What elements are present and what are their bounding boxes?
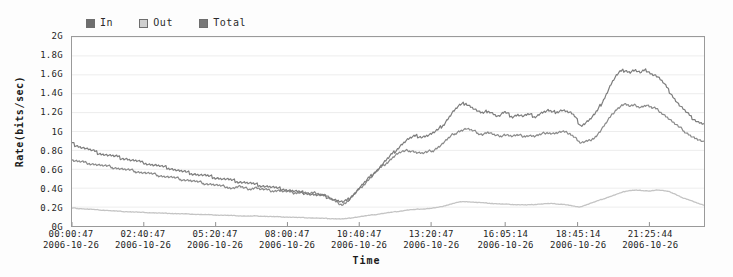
y-tick-label: 0.4G bbox=[40, 184, 63, 194]
series-line-total bbox=[72, 69, 704, 203]
x-tick-label: 10:40:472006-10-26 bbox=[331, 229, 387, 251]
x-tick-label: 18:45:142006-10-26 bbox=[550, 229, 606, 251]
x-tick-time: 05:20:47 bbox=[187, 229, 243, 240]
x-tick-label: 05:20:472006-10-26 bbox=[187, 229, 243, 251]
y-tick-label: 0.8G bbox=[40, 146, 63, 156]
x-tick-date: 2006-10-26 bbox=[331, 240, 387, 251]
x-tick-date: 2006-10-26 bbox=[43, 240, 99, 251]
legend-item-out[interactable]: Out bbox=[139, 18, 173, 28]
x-tick-time: 00:00:47 bbox=[43, 229, 99, 240]
x-tick-date: 2006-10-26 bbox=[259, 240, 315, 251]
series-line-out bbox=[72, 190, 704, 219]
x-tick-time: 21:25:44 bbox=[622, 229, 678, 240]
chart-legend: In Out Total bbox=[86, 16, 246, 30]
series-canvas bbox=[72, 37, 704, 226]
x-axis-title: Time bbox=[0, 255, 733, 266]
legend-label-total: Total bbox=[213, 18, 246, 28]
x-tick-time: 10:40:47 bbox=[331, 229, 387, 240]
x-tick-label: 21:25:442006-10-26 bbox=[622, 229, 678, 251]
x-tick-label: 02:40:472006-10-26 bbox=[115, 229, 171, 251]
legend-swatch-out bbox=[139, 19, 148, 28]
x-tick-label: 16:05:142006-10-26 bbox=[477, 229, 533, 251]
legend-label-in: In bbox=[100, 18, 113, 28]
x-tick-time: 08:00:47 bbox=[259, 229, 315, 240]
y-tick-label: 1.6G bbox=[40, 69, 63, 79]
x-tick-date: 2006-10-26 bbox=[477, 240, 533, 251]
y-tick-label: 0.6G bbox=[40, 165, 63, 175]
x-tick-time: 02:40:47 bbox=[115, 229, 171, 240]
legend-label-out: Out bbox=[153, 18, 173, 28]
x-tick-date: 2006-10-26 bbox=[115, 240, 171, 251]
x-tick-label: 00:00:472006-10-26 bbox=[43, 229, 99, 251]
x-tick-time: 16:05:14 bbox=[477, 229, 533, 240]
y-tick-label: 1.4G bbox=[40, 88, 63, 98]
x-tick-date: 2006-10-26 bbox=[403, 240, 459, 251]
y-tick-label: 0.2G bbox=[40, 203, 63, 213]
x-tick-date: 2006-10-26 bbox=[187, 240, 243, 251]
x-tick-label: 13:20:472006-10-26 bbox=[403, 229, 459, 251]
legend-item-total[interactable]: Total bbox=[199, 18, 246, 28]
series-line-in bbox=[72, 103, 704, 205]
x-axis-tick-labels: 00:00:472006-10-2602:40:472006-10-2605:2… bbox=[0, 229, 733, 255]
y-tick-label: 1.8G bbox=[40, 50, 63, 60]
y-axis-title: Rate(bits/sec) bbox=[14, 76, 25, 167]
y-tick-label: 2G bbox=[52, 31, 63, 41]
x-tick-label: 08:00:472006-10-26 bbox=[259, 229, 315, 251]
legend-swatch-total bbox=[199, 19, 208, 28]
x-tick-time: 18:45:14 bbox=[550, 229, 606, 240]
y-tick-label: 1G bbox=[52, 127, 63, 137]
x-tick-date: 2006-10-26 bbox=[550, 240, 606, 251]
y-tick-label: 1.2G bbox=[40, 107, 63, 117]
x-tick-time: 13:20:47 bbox=[403, 229, 459, 240]
legend-swatch-in bbox=[86, 19, 95, 28]
traffic-chart: In Out Total 0G0.2G0.4G0.6G0.8G1G1.2G1.4… bbox=[0, 0, 733, 277]
plot-area bbox=[71, 36, 705, 227]
x-tick-date: 2006-10-26 bbox=[622, 240, 678, 251]
legend-item-in[interactable]: In bbox=[86, 18, 113, 28]
